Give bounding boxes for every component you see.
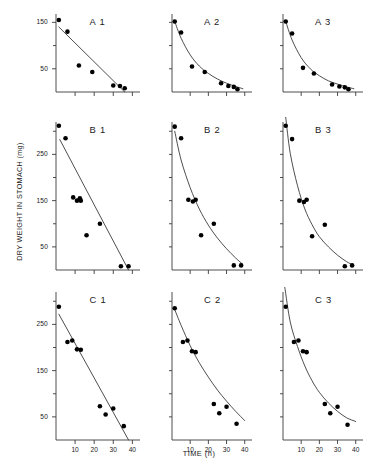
data-point	[193, 197, 198, 202]
panel-c2	[169, 292, 252, 444]
data-point	[337, 84, 342, 89]
data-point	[179, 30, 184, 35]
panel-title: C 1	[90, 294, 107, 305]
data-point	[193, 350, 198, 355]
fit-line	[175, 310, 245, 421]
x-tick-label: 40	[347, 446, 365, 453]
x-tick-label: 20	[85, 446, 103, 453]
data-point	[343, 264, 348, 269]
fit-line	[285, 287, 356, 421]
data-point	[179, 136, 184, 141]
data-point	[283, 123, 288, 128]
data-point	[226, 84, 231, 89]
y-tick-label: 250	[22, 150, 48, 157]
data-point	[328, 411, 333, 416]
panel-title: B 2	[204, 124, 220, 135]
data-point	[65, 29, 70, 34]
y-tick-label: 150	[22, 197, 48, 204]
panel-title: C 2	[204, 294, 221, 305]
data-point	[212, 221, 217, 226]
x-tick-label: 40	[123, 446, 141, 453]
data-point	[219, 81, 224, 86]
data-point	[111, 83, 116, 88]
data-point	[297, 198, 302, 203]
y-tick-label: 50	[22, 65, 48, 72]
data-point	[84, 233, 89, 238]
data-point	[111, 406, 116, 411]
data-point	[79, 198, 84, 203]
data-point	[71, 195, 76, 200]
x-tick-label: 20	[310, 446, 328, 453]
panel-b1	[52, 122, 140, 274]
data-point	[301, 66, 306, 71]
panel-c1	[52, 292, 140, 444]
fit-line	[175, 21, 243, 88]
data-point	[283, 305, 288, 310]
data-point	[212, 402, 217, 407]
data-point	[98, 404, 103, 409]
data-point	[202, 70, 207, 75]
data-point	[217, 411, 222, 416]
data-point	[121, 424, 126, 429]
data-point	[304, 350, 309, 355]
fit-line	[286, 21, 354, 88]
data-point	[57, 305, 62, 310]
data-point	[312, 71, 317, 76]
x-tick-label: 10	[181, 446, 199, 453]
data-point	[79, 348, 84, 353]
panel-b3	[280, 117, 363, 274]
data-point	[323, 402, 328, 407]
panel-title: A 1	[90, 16, 106, 27]
y-tick-label: 150	[22, 18, 48, 25]
data-point	[234, 422, 239, 427]
panel-title: B 1	[90, 124, 106, 135]
plot-canvas	[0, 0, 368, 466]
data-point	[283, 19, 288, 24]
y-tick-label: 150	[22, 367, 48, 374]
data-point	[172, 306, 177, 311]
y-tick-label: 250	[22, 320, 48, 327]
figure-panel-grid: DRY WEIGHT IN STOMACH (mg) TIME (h) 5015…	[0, 0, 368, 466]
data-point	[232, 263, 237, 268]
x-tick-label: 10	[292, 446, 310, 453]
data-point	[57, 18, 62, 23]
fit-line	[60, 140, 129, 270]
x-tick-label: 10	[66, 446, 84, 453]
data-point	[346, 87, 351, 92]
data-point	[57, 123, 62, 128]
panel-title: B 3	[315, 124, 331, 135]
data-point	[63, 136, 68, 141]
x-tick-label: 30	[218, 446, 236, 453]
data-point	[296, 338, 301, 343]
data-point	[345, 422, 350, 427]
data-point	[235, 87, 240, 92]
x-tick-label: 20	[199, 446, 217, 453]
data-point	[172, 19, 177, 24]
data-point	[98, 221, 103, 226]
x-tick-label: 30	[329, 446, 347, 453]
data-point	[126, 264, 131, 269]
data-point	[77, 63, 82, 68]
data-point	[122, 86, 127, 91]
data-point	[118, 84, 123, 89]
data-point	[335, 404, 340, 409]
data-point	[239, 263, 244, 268]
panel-title: A 2	[204, 16, 220, 27]
data-point	[103, 412, 108, 417]
y-tick-label: 50	[22, 243, 48, 250]
data-point	[119, 264, 124, 269]
panel-b2	[169, 122, 252, 274]
data-point	[330, 82, 335, 87]
panel-c3	[280, 287, 363, 444]
data-point	[290, 31, 295, 36]
panel-title: A 3	[315, 16, 331, 27]
fit-line	[175, 131, 243, 264]
data-point	[186, 197, 191, 202]
data-point	[65, 340, 70, 345]
data-point	[185, 338, 190, 343]
data-point	[181, 340, 186, 345]
fit-line	[59, 314, 129, 440]
fit-line	[286, 117, 354, 265]
panel-title: C 3	[315, 294, 332, 305]
fit-line	[59, 27, 125, 92]
